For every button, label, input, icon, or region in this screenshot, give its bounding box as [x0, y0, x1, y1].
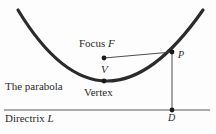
directrix-variable: L	[47, 112, 53, 124]
vertex-point-marker	[102, 79, 107, 84]
vertex-variable-label: V	[101, 64, 108, 75]
parabola-figure: Focus F V The parabola Vertex P D Direct…	[0, 0, 216, 134]
focus-variable: F	[108, 37, 115, 49]
point-p-marker	[170, 50, 175, 55]
vertex-label: Vertex	[84, 87, 113, 98]
directrix-label-text: Directrix	[5, 112, 45, 124]
point-d-label: D	[168, 113, 175, 123]
focus-point-marker	[102, 56, 107, 61]
directrix-label: Directrix L	[5, 113, 54, 124]
focus-label: Focus F	[79, 38, 115, 49]
focus-label-text: Focus	[79, 37, 105, 49]
point-p-label: P	[178, 50, 184, 60]
parabola-label: The parabola	[5, 81, 63, 92]
